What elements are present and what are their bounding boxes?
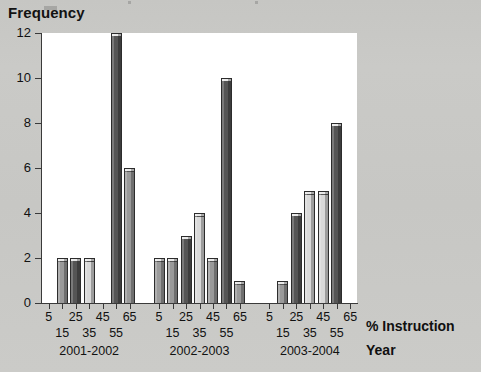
x-tick <box>116 304 117 309</box>
plot-area <box>42 33 357 303</box>
bar-shadow-face <box>91 259 94 303</box>
x-tick <box>323 304 324 309</box>
bar-highlight-face <box>235 282 237 304</box>
bar <box>181 236 192 304</box>
x-tick-label: 25 <box>179 310 193 324</box>
bar-highlight-face <box>71 259 73 303</box>
bar-highlight-face <box>125 169 127 303</box>
y-tick: 4 <box>35 213 41 214</box>
bar-shadow-face <box>298 214 301 303</box>
bar-highlight-face <box>85 259 87 303</box>
x-tick <box>240 304 241 309</box>
bar <box>207 258 218 303</box>
bar-highlight-face <box>182 237 184 304</box>
y-tick-label: 10 <box>17 70 31 85</box>
bar-shadow-face <box>214 259 217 303</box>
bar <box>304 191 315 304</box>
y-tick-label: 2 <box>24 250 31 265</box>
x-tick-label: 45 <box>96 310 110 324</box>
bar <box>70 258 81 303</box>
x-tick-label: 65 <box>343 310 357 324</box>
bar <box>234 281 245 304</box>
bar-shadow-face <box>77 259 80 303</box>
bar-shadow-face <box>131 169 134 303</box>
scan-artifact <box>255 1 258 4</box>
bar-highlight-face <box>58 259 60 303</box>
x-tick <box>89 304 90 309</box>
bar <box>194 213 205 303</box>
bar-shadow-face <box>325 192 328 304</box>
bar-highlight-face <box>155 259 157 303</box>
x-tick <box>200 304 201 309</box>
x-tick-label: 55 <box>219 326 233 340</box>
bar-shadow-face <box>118 34 121 303</box>
x-tick-label: 55 <box>330 326 344 340</box>
x-tick <box>226 304 227 309</box>
bar-highlight-face <box>112 34 114 303</box>
x-tick <box>283 304 284 309</box>
x-tick <box>173 304 174 309</box>
bar <box>111 33 122 303</box>
bar-highlight-face <box>195 214 197 303</box>
x-tick-label: 35 <box>82 326 96 340</box>
x-tick <box>159 304 160 309</box>
y-tick: 6 <box>35 168 41 169</box>
bar-shadow-face <box>241 282 244 304</box>
x-tick-label: 35 <box>303 326 317 340</box>
bar <box>84 258 95 303</box>
bar <box>318 191 329 304</box>
x-tick <box>103 304 104 309</box>
x-tick-label: 25 <box>69 310 83 324</box>
bar-highlight-face <box>292 214 294 303</box>
y-tick: 10 <box>35 78 41 79</box>
bar <box>277 281 288 304</box>
x-axis-group-label: 2001-2002 <box>59 344 119 358</box>
x-tick-label: 15 <box>166 326 180 340</box>
x-tick-label: 45 <box>206 310 220 324</box>
y-tick: 12 <box>35 33 41 34</box>
x-tick-label: 65 <box>233 310 247 324</box>
bar <box>291 213 302 303</box>
x-tick <box>62 304 63 309</box>
x-tick-label: 25 <box>289 310 303 324</box>
x-tick-label: 5 <box>156 310 163 324</box>
y-tick: 0 <box>35 303 41 304</box>
bar-shadow-face <box>228 79 231 303</box>
bar-shadow-face <box>64 259 67 303</box>
x-tick-label: 5 <box>266 310 273 324</box>
bar-highlight-face <box>319 192 321 304</box>
bar-shadow-face <box>284 282 287 304</box>
bar-shadow-face <box>188 237 191 304</box>
chart-page: Frequency 024681012 51525354555655152535… <box>0 0 481 372</box>
x-tick <box>186 304 187 309</box>
x-tick-label: 35 <box>193 326 207 340</box>
bar-shadow-face <box>311 192 314 304</box>
y-tick-label: 12 <box>17 25 31 40</box>
x-tick-label: 55 <box>109 326 123 340</box>
bar-highlight-face <box>208 259 210 303</box>
bar-shadow-face <box>174 259 177 303</box>
x-axis-group-label: 2003-2004 <box>280 344 340 358</box>
scan-artifact <box>128 1 131 4</box>
x-tick-label: 15 <box>55 326 69 340</box>
bar <box>331 123 342 303</box>
y-tick: 2 <box>35 258 41 259</box>
y-tick-label: 6 <box>24 160 31 175</box>
y-tick: 8 <box>35 123 41 124</box>
x-tick <box>130 304 131 309</box>
x-tick <box>269 304 270 309</box>
x-tick <box>337 304 338 309</box>
x-tick <box>350 304 351 309</box>
y-tick-label: 8 <box>24 115 31 130</box>
bar <box>167 258 178 303</box>
bar <box>124 168 135 303</box>
x-axis-group-label: 2002-2003 <box>170 344 230 358</box>
x-tick-label: 65 <box>123 310 137 324</box>
x-tick <box>310 304 311 309</box>
x-tick <box>49 304 50 309</box>
bar <box>221 78 232 303</box>
x-tick-label: 45 <box>316 310 330 324</box>
x-axis-title: % Instruction <box>366 318 455 334</box>
y-axis-title: Frequency <box>8 4 85 21</box>
bar-highlight-face <box>168 259 170 303</box>
